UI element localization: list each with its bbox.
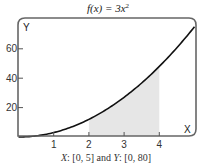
function-plot: f(x) = 3x2 204060 1234 Y X X: [0, 5] and… (0, 0, 203, 168)
x-tick-label: 4 (157, 139, 163, 150)
x-axis-label: X (184, 124, 191, 135)
x-tick-label: 1 (51, 139, 57, 150)
x-tick-label: 3 (121, 139, 127, 150)
y-axis-ticks: 204060 (6, 43, 23, 113)
y-tick-label: 20 (6, 102, 18, 113)
axis-range-caption: X: [0, 5] and Y: [0, 80] (60, 152, 151, 163)
y-axis-label: Y (23, 22, 30, 33)
x-tick-label: 2 (86, 139, 92, 150)
y-tick-label: 40 (6, 73, 18, 84)
chart-title: f(x) = 3x2 (87, 2, 130, 15)
y-tick-label: 60 (6, 43, 18, 54)
